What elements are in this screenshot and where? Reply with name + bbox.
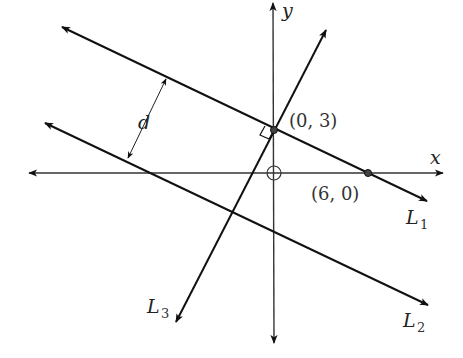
label-l2: L 2 — [402, 309, 425, 335]
line-l3 — [176, 30, 326, 322]
point-label-0-3: (0, 3) — [289, 110, 337, 131]
svg-text:L: L — [405, 206, 419, 228]
label-l1: L 1 — [405, 206, 428, 232]
svg-text:L: L — [146, 295, 160, 317]
point-6-0 — [365, 170, 372, 177]
y-axis — [273, 3, 274, 343]
x-axis-label: x — [430, 146, 441, 168]
label-l3: L 3 — [146, 295, 169, 321]
coordinate-diagram: y x (0, 3) (6, 0) d L 1 L 2 L 3 — [0, 0, 463, 358]
point-label-6-0: (6, 0) — [311, 183, 359, 204]
distance-label: d — [138, 111, 150, 133]
point-0-3 — [271, 127, 278, 134]
y-axis-label: y — [281, 0, 293, 21]
line-l2 — [45, 123, 428, 305]
svg-text:1: 1 — [420, 217, 428, 232]
svg-text:L: L — [402, 309, 416, 331]
svg-text:3: 3 — [161, 306, 169, 321]
line-l1 — [62, 27, 427, 201]
svg-text:2: 2 — [417, 320, 425, 335]
